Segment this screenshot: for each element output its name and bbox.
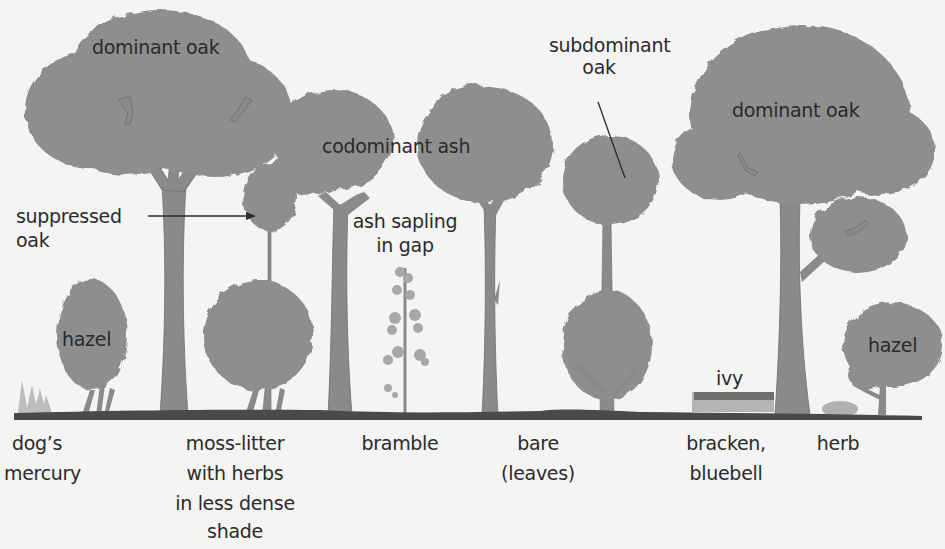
ground-label-dogs-mercury-1: dog’s: [12, 430, 62, 456]
subdominant-oak: [562, 135, 658, 415]
ground-label-bracken-2: bluebell: [676, 460, 776, 486]
ground-label-bramble: bramble: [350, 430, 450, 456]
label-hazel-left: hazel: [62, 326, 111, 352]
woodland-diagram: [0, 0, 945, 549]
label-ivy: ivy: [716, 365, 743, 391]
ground-label-moss-litter-2: with herbs: [160, 460, 310, 486]
ground-label-moss-litter-1: moss-litter: [160, 430, 310, 456]
label-suppressed-oak-2: oak: [16, 227, 49, 253]
label-suppressed-oak-1: suppressed: [16, 203, 122, 229]
dogs-mercury-plants: [18, 380, 52, 413]
hazel-right: [843, 303, 943, 415]
label-codominant-ash: codominant ash: [322, 133, 470, 159]
label-ash-sapling-2: in gap: [350, 232, 460, 258]
label-dominant-oak-right: dominant oak: [732, 97, 859, 123]
ground-label-moss-litter-4: shade: [160, 518, 310, 544]
hazel-middle: [203, 280, 313, 415]
ground-label-bare-1: bare: [488, 430, 588, 456]
ash-sapling: [383, 267, 429, 415]
ground-label-dogs-mercury-2: mercury: [4, 460, 81, 486]
label-subdominant-oak-2: oak: [549, 54, 649, 80]
ground-label-bare-2: (leaves): [488, 460, 588, 486]
label-dominant-oak-left: dominant oak: [92, 34, 219, 60]
ground-label-moss-litter-3: in less dense: [160, 490, 310, 516]
label-ash-sapling-1: ash sapling: [350, 208, 460, 234]
bracken-bluebell-plants: [692, 392, 774, 412]
ground-label-bracken-1: bracken,: [676, 430, 776, 456]
label-hazel-right: hazel: [868, 332, 917, 358]
ground-label-herb: herb: [808, 430, 868, 456]
